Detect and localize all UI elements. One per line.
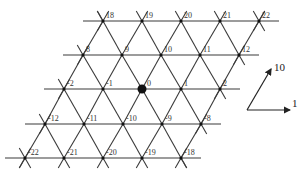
lattice-stub — [259, 21, 265, 31]
lattice-node — [160, 122, 163, 125]
node-label: -2 — [67, 80, 74, 88]
lattice-stub — [19, 158, 25, 168]
lattice-diagonal — [64, 89, 84, 124]
lattice-stub — [233, 55, 239, 65]
lattice-diagonal — [200, 55, 220, 89]
lattice-diagonal — [103, 89, 123, 124]
lattice-stub — [58, 79, 64, 89]
lattice-stub — [195, 124, 201, 134]
node-label: -11 — [87, 115, 97, 123]
lattice-node — [218, 19, 221, 22]
lattice-node — [179, 156, 182, 159]
lattice-diagonal — [83, 55, 103, 89]
lattice-stub — [253, 11, 259, 21]
node-label: -18 — [184, 149, 195, 157]
lattice-stub — [214, 11, 220, 21]
lattice-node — [43, 122, 46, 125]
lattice-stub — [97, 11, 103, 21]
basis-label-1: 1 — [292, 98, 298, 109]
lattice-stub — [175, 158, 181, 168]
lattice-diagonal — [123, 124, 142, 158]
node-label: 21 — [223, 12, 231, 20]
lattice-diagonal — [162, 124, 181, 158]
origin-node — [138, 85, 147, 94]
lattice-node — [120, 53, 123, 56]
lattice-diagonal — [181, 21, 200, 55]
lattice-stub — [39, 114, 45, 124]
lattice-stub — [220, 89, 226, 99]
lattice-node — [121, 122, 124, 125]
node-label: 20 — [184, 12, 192, 20]
lattice-node — [140, 156, 143, 159]
lattice-node — [81, 53, 84, 56]
lattice-stub — [136, 11, 142, 21]
lattice-stub — [19, 148, 25, 158]
node-label: -19 — [145, 149, 156, 157]
lattice-diagonal — [161, 55, 181, 89]
lattice-node — [82, 122, 85, 125]
lattice-node — [179, 87, 182, 90]
lattice-diagonal — [122, 55, 142, 89]
node-label: 2 — [223, 80, 227, 88]
lattice-node — [198, 53, 201, 56]
lattice-stub — [77, 55, 83, 65]
node-label: -9 — [165, 115, 172, 123]
lattice-stub — [25, 158, 31, 168]
lattice-node — [218, 87, 221, 90]
node-label: -20 — [106, 149, 117, 157]
lattice-stub — [64, 158, 70, 168]
lattice-diagonal — [142, 21, 161, 55]
lattice-stub — [239, 55, 245, 65]
lattice-diagonal — [142, 89, 162, 124]
lattice-diagonal — [181, 89, 201, 124]
node-label: 18 — [106, 12, 114, 20]
node-label: 12 — [242, 46, 250, 54]
node-label: -10 — [126, 115, 137, 123]
lattice-stub — [97, 158, 103, 168]
basis-arrow-10 — [247, 69, 271, 110]
lattice-stub — [181, 158, 187, 168]
lattice-node — [101, 19, 104, 22]
node-label: 19 — [145, 12, 153, 20]
node-label: 8 — [86, 46, 90, 54]
node-label: 9 — [125, 46, 129, 54]
lattice-stub — [103, 158, 109, 168]
lattice-node — [159, 53, 162, 56]
lattice-stub — [58, 158, 64, 168]
lattice-stub — [136, 158, 142, 168]
lattice-diagram: 181920212289101112-2-1012-12-11-10-9-8-2… — [0, 0, 303, 182]
lattice-stub — [175, 11, 181, 21]
lattice-stub — [97, 21, 103, 31]
lattice-node — [23, 156, 26, 159]
lattice-diagonal — [142, 55, 161, 89]
node-label: -21 — [67, 149, 78, 157]
node-label: 0 — [147, 80, 151, 88]
lattice-stub — [253, 21, 259, 31]
node-label: -22 — [28, 149, 39, 157]
lattice-node — [199, 122, 202, 125]
lattice-stub — [214, 89, 220, 99]
node-label: 11 — [203, 46, 211, 54]
lattice-diagonal — [45, 124, 64, 158]
lattice-stub — [39, 124, 45, 134]
lattice-stub — [201, 124, 207, 134]
lattice-node — [257, 19, 260, 22]
lattice-stub — [58, 89, 64, 99]
lattice-node — [62, 156, 65, 159]
lattice-diagonal — [103, 21, 122, 55]
node-label: -12 — [48, 115, 59, 123]
lattice-stub — [142, 158, 148, 168]
lattice-node — [179, 19, 182, 22]
node-label: 1 — [184, 80, 188, 88]
node-label: 22 — [262, 12, 270, 20]
node-label: -1 — [106, 80, 113, 88]
node-label: -8 — [204, 115, 211, 123]
node-label: 10 — [164, 46, 172, 54]
lattice-node — [101, 156, 104, 159]
lattice-node — [62, 87, 65, 90]
basis-label-10: 10 — [274, 62, 285, 73]
lattice-diagonal — [220, 21, 239, 55]
lattice-node — [140, 19, 143, 22]
lattice-diagonal — [84, 124, 103, 158]
lattice-stub — [77, 45, 83, 55]
